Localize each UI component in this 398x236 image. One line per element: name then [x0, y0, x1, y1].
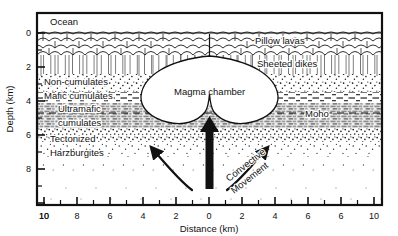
- x-tick-10: 10: [369, 211, 379, 221]
- y-tick-6: 6: [26, 130, 31, 140]
- layer-pillow-lavas: [31, 32, 391, 55]
- label-ultramafic-cumulates-line1: Ultramafic: [58, 103, 101, 114]
- cross-section-figure: Ocean Pillow lavas Sheeted dikes Non-cum…: [0, 0, 398, 236]
- label-ocean: Ocean: [50, 16, 78, 27]
- y-tick-2: 2: [26, 62, 31, 72]
- y-axis-title: Depth (km): [4, 86, 15, 133]
- x-tick-5: 0: [206, 211, 211, 221]
- x-tick-0: 10: [39, 211, 49, 221]
- label-tectonized-line2: Harzburgites: [50, 147, 104, 158]
- label-moho: Moho: [305, 108, 329, 119]
- x-tick-6: 2: [239, 211, 244, 221]
- label-magma-chamber: Magma chamber: [174, 86, 245, 97]
- label-non-cumulates: Non-cumulates: [44, 76, 108, 87]
- x-tick-8: 6: [305, 211, 310, 221]
- layer-ocean: [37, 13, 382, 33]
- y-tick-0: 0: [26, 28, 31, 38]
- x-tick-2: 6: [107, 211, 112, 221]
- x-tick-9: 6: [338, 211, 343, 221]
- y-tick-4: 4: [26, 96, 31, 106]
- label-ultramafic-cumulates-line2: cumulates: [58, 117, 102, 128]
- section-body: Ocean Pillow lavas Sheeted dikes Non-cum…: [31, 13, 391, 205]
- label-pillow-lavas: Pillow lavas: [255, 35, 305, 46]
- label-mafic-cumulates: Mafic cumulates: [44, 90, 113, 101]
- cross-section-svg: Ocean Pillow lavas Sheeted dikes Non-cum…: [0, 0, 398, 236]
- x-tick-3: 4: [140, 211, 145, 221]
- x-tick-4: 2: [173, 211, 178, 221]
- label-tectonized-line1: Tectonized: [50, 133, 95, 144]
- x-tick-7: 4: [272, 211, 277, 221]
- x-tick-1: 8: [74, 211, 79, 221]
- label-sheeted-dikes: Sheeted dikes: [257, 58, 317, 69]
- x-tick-labels: 10 8 6 4 2 0 2 4 6 6 10: [39, 211, 379, 221]
- x-axis-title: Distance (km): [180, 223, 239, 234]
- y-tick-8: 8: [26, 164, 31, 174]
